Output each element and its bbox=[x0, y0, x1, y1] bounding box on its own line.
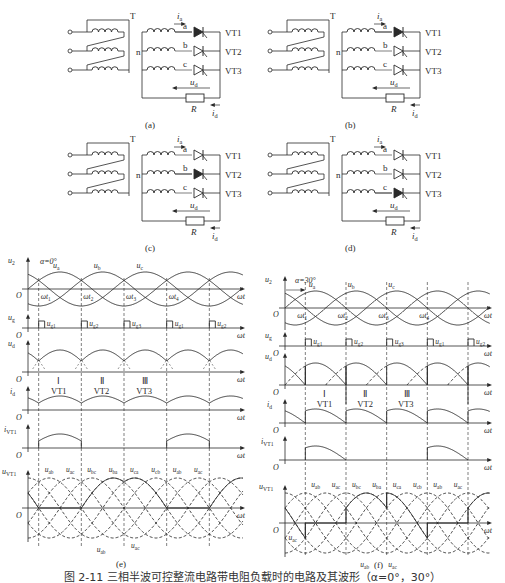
terminal-icon bbox=[68, 68, 72, 72]
subfigure-label: (a) bbox=[145, 120, 155, 130]
axis-label-wt: ωt bbox=[484, 426, 493, 435]
resistor-icon bbox=[386, 217, 404, 225]
origin-label: O bbox=[16, 291, 22, 300]
axis-label-uvt1: uVT1 bbox=[2, 467, 16, 477]
phase-label-uc: uc bbox=[388, 280, 395, 290]
origin-label: O bbox=[273, 463, 279, 472]
conduction-interval-label: Ⅲ bbox=[404, 389, 410, 399]
phase-label-ua: ua bbox=[53, 261, 60, 271]
line-voltage-label: uca bbox=[393, 480, 402, 490]
axis-label-ug: ug bbox=[8, 313, 15, 323]
line-voltage-label: uac bbox=[454, 480, 463, 490]
thyristor-label: VT1 bbox=[225, 151, 242, 161]
line-voltage-label: ucb bbox=[413, 480, 422, 490]
conduction-device-label: VT2 bbox=[357, 399, 373, 409]
origin-label: O bbox=[273, 526, 279, 535]
axis-label-ivt1: iVT1 bbox=[4, 425, 17, 435]
thyristor-vt3-icon bbox=[394, 65, 407, 76]
line-voltage-label: uab bbox=[311, 480, 320, 490]
conduction-interval-label: Ⅱ bbox=[363, 389, 367, 399]
wt-label: ωt1 bbox=[297, 311, 307, 321]
origin-label: O bbox=[16, 451, 22, 460]
phase-label-b: b bbox=[183, 163, 188, 173]
thyristor-label: VT3 bbox=[425, 189, 442, 199]
circuit-d: TnaVT1bVT2cVT3Rudidia(d) bbox=[268, 134, 442, 253]
terminal-icon bbox=[268, 30, 272, 34]
phase-label-c: c bbox=[183, 59, 187, 69]
axis-label-wt: ωt bbox=[237, 375, 246, 384]
thyristor-vt2-icon bbox=[194, 46, 207, 57]
resistor-label: R bbox=[190, 227, 197, 237]
axis-label-id: id bbox=[267, 400, 272, 410]
resistor-label: R bbox=[390, 227, 397, 237]
phase-label-a: a bbox=[183, 21, 187, 31]
line-voltage-label: uab bbox=[45, 465, 54, 475]
line-voltage-label: ubc bbox=[87, 465, 96, 475]
axis-label-ud: ud bbox=[8, 339, 15, 349]
wt-label: ωt4 bbox=[419, 311, 429, 321]
terminal-icon bbox=[68, 30, 72, 34]
axis-label-wt: ωt bbox=[484, 349, 493, 358]
neutral-label: n bbox=[336, 170, 341, 180]
terminal-icon bbox=[68, 49, 72, 53]
thyristor-vt1-icon bbox=[194, 27, 207, 38]
load-voltage-label: ud bbox=[390, 77, 399, 88]
figure-canvas: TnaVT1bVT2cVT3Rudidia(a)TnaVT1bVT2cVT3Ru… bbox=[0, 0, 505, 583]
wt-label: ωt1 bbox=[41, 292, 51, 302]
axis-label-wt: ωt bbox=[237, 331, 246, 340]
terminal-icon bbox=[68, 153, 72, 157]
line-voltage-label: uba bbox=[372, 480, 381, 490]
thyristor-label: VT3 bbox=[425, 66, 442, 76]
phase-label-a: a bbox=[383, 144, 387, 154]
origin-label: O bbox=[273, 426, 279, 435]
phase-current-label: ia bbox=[177, 134, 183, 145]
axis-label-wt: ωt bbox=[237, 451, 246, 460]
neutral-label: n bbox=[336, 47, 341, 57]
gate-pulse-label: ug3 bbox=[395, 337, 404, 347]
gate-pulse-label: ug3 bbox=[132, 319, 141, 329]
axis-label-u2: u2 bbox=[8, 256, 15, 266]
phase-label-c: c bbox=[383, 59, 387, 69]
gate-pulse-label: ug1 bbox=[435, 337, 444, 347]
thyristor-vt2-icon bbox=[394, 169, 407, 180]
conduction-device-label: VT1 bbox=[51, 386, 67, 396]
load-current-label: id bbox=[412, 108, 419, 119]
load-voltage-label: ud bbox=[190, 200, 199, 211]
gate-pulse-label: ug1 bbox=[313, 337, 322, 347]
phase-current-label: ia bbox=[177, 11, 183, 22]
axis-label-ug: ug bbox=[265, 331, 272, 341]
wt-label: ωt2 bbox=[338, 311, 348, 321]
thyristor-label: VT3 bbox=[225, 66, 242, 76]
axis-label-wt: ωt bbox=[237, 292, 246, 301]
thyristor-label: VT1 bbox=[425, 151, 442, 161]
gate-pulse-label: ug2 bbox=[89, 319, 98, 329]
neutral-label: n bbox=[136, 47, 141, 57]
line-voltage-label: uab bbox=[173, 465, 182, 475]
line-voltage-label: uac bbox=[288, 533, 297, 543]
wt-label: ωt3 bbox=[379, 311, 389, 321]
origin-label: O bbox=[16, 331, 22, 340]
circuit-c: TnaVT1bVT2cVT3Rudidia(c) bbox=[68, 134, 242, 253]
origin-label: O bbox=[16, 413, 22, 422]
terminal-icon bbox=[68, 191, 72, 195]
load-current-label: id bbox=[212, 108, 219, 119]
waveform-panel-f: u2Oωtα=30°uaubucωt1ωt2ωt3ωt4ugOωtug1ug2u… bbox=[259, 275, 493, 570]
axis-label-uvt1: uVT1 bbox=[259, 482, 273, 492]
conduction-interval-label: Ⅰ bbox=[323, 389, 326, 399]
phase-label-uc: uc bbox=[136, 261, 143, 271]
line-voltage-label: uca bbox=[130, 465, 139, 475]
resistor-label: R bbox=[190, 104, 197, 114]
thyristor-vt2-icon bbox=[194, 169, 207, 180]
line-voltage-label: uab bbox=[433, 480, 442, 490]
gate-pulse-label: ug1 bbox=[47, 319, 56, 329]
resistor-label: R bbox=[390, 104, 397, 114]
thyristor-label: VT2 bbox=[425, 47, 442, 57]
thyristor-label: VT2 bbox=[225, 170, 242, 180]
axis-label-u2: u2 bbox=[265, 275, 272, 285]
gate-pulse-label: ug2 bbox=[476, 337, 485, 347]
thyristor-vt3-icon bbox=[194, 188, 207, 199]
origin-label: O bbox=[16, 511, 22, 520]
conduction-interval-label: Ⅲ bbox=[142, 376, 148, 386]
gate-pulse-label: ug2 bbox=[354, 337, 363, 347]
thyristor-label: VT1 bbox=[425, 28, 442, 38]
